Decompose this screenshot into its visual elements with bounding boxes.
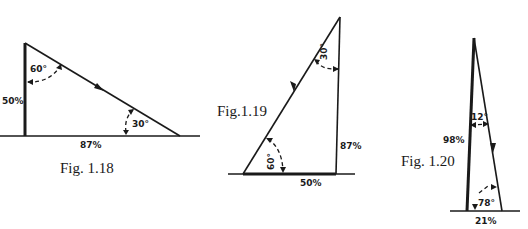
fig18-bottom-angle-label: 30°	[132, 119, 149, 129]
fig18-caption: Fig. 1.18	[60, 160, 114, 176]
fig20-bottom-arc-arrow-icon	[491, 184, 497, 190]
fig18-bottom-arc-arrow-icon	[128, 109, 134, 115]
fig18-direction-arrow-icon	[94, 83, 104, 91]
fig18-top-arc-arrow-icon	[27, 79, 33, 85]
fig19-caption: Fig.1.19	[217, 103, 267, 119]
fig20-top-angle-label: 12°	[471, 112, 488, 122]
fig19-hypotenuse	[243, 17, 340, 174]
fig18-top-angle-label: 60°	[30, 64, 47, 74]
fig20-direction-arrow-icon	[490, 143, 496, 153]
fig19-bottom-arc-arrow-icon	[280, 167, 286, 173]
figure-1-19: 30° 60° 87% 50% Fig.1.19	[217, 17, 362, 188]
fig18-bottom-arc-arrow-icon	[123, 130, 129, 135]
fig19-top-angle-label: 30°	[319, 43, 329, 60]
fig18-vertical-label: 50%	[2, 96, 24, 106]
fig20-left-label: 98%	[443, 135, 465, 145]
fig18-base-label: 87%	[80, 140, 102, 150]
fig19-bottom-angle-label: 60°	[266, 153, 276, 170]
figure-1-20: 12° 78° 98% 21% Fig. 1.20	[401, 38, 520, 226]
fig19-base-label: 50%	[300, 178, 322, 188]
diagram-canvas: 60° 30° 50% 87% Fig. 1.18 30° 60° 87% 50…	[0, 0, 528, 229]
fig18-top-arc-arrow-icon	[56, 64, 62, 70]
fig20-base-label: 21%	[475, 216, 497, 226]
fig20-caption: Fig. 1.20	[401, 153, 455, 169]
fig19-vertical-label: 87%	[340, 141, 362, 151]
fig20-bottom-angle-arc	[479, 186, 488, 193]
figure-1-18: 60° 30° 50% 87% Fig. 1.18	[0, 43, 200, 176]
fig20-bottom-angle-label: 78°	[478, 198, 495, 208]
fig19-bottom-arc-arrow-icon	[266, 138, 273, 143]
